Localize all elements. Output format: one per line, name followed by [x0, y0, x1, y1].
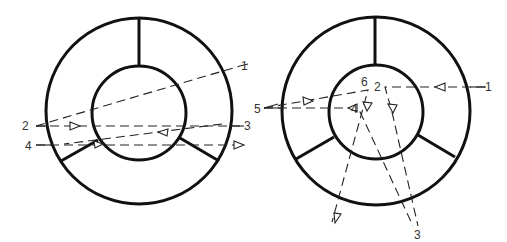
- inner-ring: [92, 66, 186, 160]
- label-1: 1: [241, 59, 248, 73]
- arrowhead-icon: [334, 213, 341, 223]
- arrowhead-icon: [303, 97, 313, 105]
- arrowhead-icon: [388, 104, 397, 113]
- label-5: 5: [254, 102, 261, 116]
- arrowhead-icon: [70, 122, 80, 130]
- spoke: [418, 135, 455, 157]
- label-2: 2: [22, 119, 29, 133]
- ray-path-3: [64, 124, 222, 144]
- diagram-canvas: 1234123456: [0, 0, 507, 242]
- label-6: 6: [361, 75, 368, 89]
- arrowhead-icon: [363, 102, 372, 111]
- ray-path-5-lower: [264, 108, 413, 226]
- left-ring: 1234: [22, 18, 251, 204]
- label-3: 3: [244, 119, 251, 133]
- leader-line: [264, 104, 278, 108]
- spoke: [296, 137, 334, 159]
- label-3: 3: [414, 228, 421, 242]
- label-4: 4: [25, 139, 32, 153]
- arrowhead-icon: [234, 141, 244, 149]
- label-1: 1: [485, 80, 492, 94]
- arrowhead-icon: [158, 129, 168, 136]
- arrowhead-icon: [435, 83, 445, 91]
- spoke: [180, 138, 219, 161]
- right-ring: 123456: [254, 17, 492, 242]
- label-2: 2: [374, 80, 381, 94]
- ray-path-1: [36, 66, 240, 126]
- label-4: 4: [351, 102, 358, 116]
- diagrams-root: 1234123456: [22, 17, 492, 242]
